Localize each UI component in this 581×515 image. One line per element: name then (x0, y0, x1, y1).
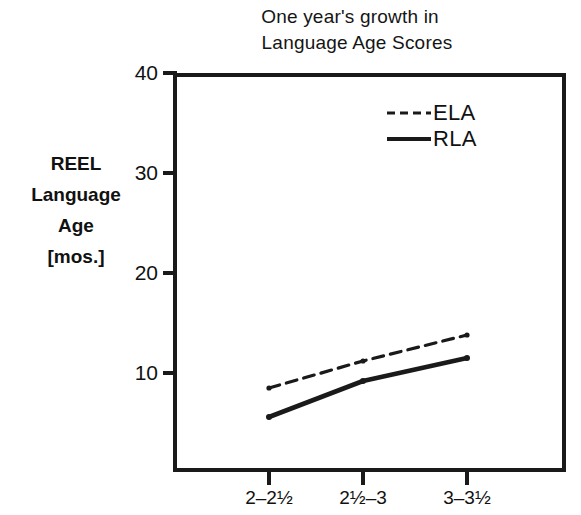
y-tick-mark-30 (163, 171, 177, 175)
chart-title: One year's growth in Language Age Scores (150, 4, 550, 56)
legend-label-ela: ELA (433, 102, 475, 124)
dashed-line-icon (385, 105, 433, 121)
chart-legend: ELA RLA (385, 100, 515, 152)
y-tick-label-wrap-30: 30 (108, 162, 158, 183)
y-tick-mark-10 (163, 371, 177, 375)
y-tick-mark-20 (163, 271, 177, 275)
y-tick-label-40: 40 (112, 62, 158, 83)
x-tick-label-2: 2½–3 (303, 487, 423, 509)
chart-title-line-1: One year's growth in (150, 4, 550, 30)
legend-item-ela: ELA (385, 100, 515, 126)
y-tick-label-10: 10 (112, 362, 158, 383)
chart-page: One year's growth in Language Age Scores… (0, 0, 581, 515)
legend-label-rla: RLA (433, 128, 477, 150)
y-axis-title-line-3: Age (12, 210, 140, 241)
y-tick-label-30: 30 (112, 162, 158, 183)
solid-line-icon (385, 131, 433, 147)
x-tick-mark-2 (361, 472, 365, 485)
x-tick-mark-1 (267, 472, 271, 485)
y-tick-label-wrap-20: 20 (108, 262, 158, 283)
x-tick-mark-3 (465, 472, 469, 485)
y-tick-label-20: 20 (112, 262, 158, 283)
chart-title-line-2: Language Age Scores (150, 30, 550, 56)
y-tick-mark-40 (163, 71, 177, 75)
y-axis-title-line-2: Language (12, 179, 140, 210)
y-tick-label-wrap-40: 40 (108, 62, 158, 83)
y-tick-label-wrap-10: 10 (108, 362, 158, 383)
legend-item-rla: RLA (385, 126, 515, 152)
x-tick-label-3: 3–3½ (407, 487, 527, 509)
